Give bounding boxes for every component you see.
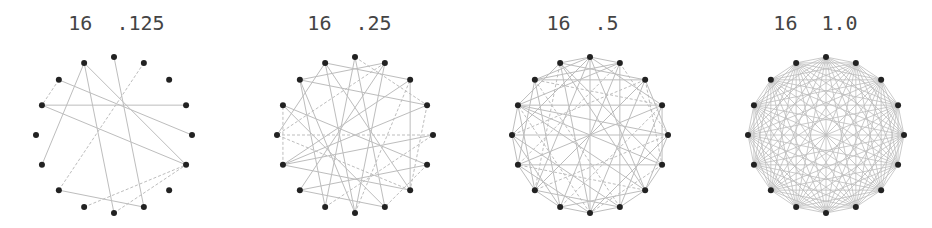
graph-edge [59,80,192,135]
graph-node [166,187,172,193]
graph-4 [745,54,907,216]
graph-node [352,210,358,216]
graph-node [751,102,757,108]
graph-edge [59,63,144,190]
graph-node [768,187,774,193]
graph-node [39,102,45,108]
graph-node [587,54,593,60]
graph-node [56,187,62,193]
graph-node [617,204,623,210]
graph-node [382,60,388,66]
graph-node [183,102,189,108]
circular-graph-drawings [0,0,932,228]
graph-node [280,162,286,168]
graph-node [745,132,751,138]
graph-node [141,204,147,210]
graph-node [189,132,195,138]
graph-node [823,210,829,216]
graph-node [642,187,648,193]
graph-node [895,102,901,108]
graph-node [878,77,884,83]
graph-node [823,54,829,60]
graph-node [532,77,538,83]
graph-node [424,162,430,168]
graph-node [81,60,87,66]
graph-node [183,162,189,168]
graph-edge [410,105,427,190]
graph-edge [590,165,662,213]
graph-node [111,210,117,216]
graph-node [141,60,147,66]
graph-node [793,60,799,66]
graph-node [557,204,563,210]
graph-edge [535,63,620,80]
graph-node [424,102,430,108]
graph-node [617,60,623,66]
graph-edge [114,57,144,207]
graph-edge [84,165,186,207]
graph-node [280,102,286,108]
graph-3 [509,54,671,216]
graph-node [322,204,328,210]
graph-1 [33,54,195,216]
graph-node [407,187,413,193]
graph-node [39,162,45,168]
graph-edge [300,190,385,207]
graph-edge [512,57,590,135]
graph-node [56,77,62,83]
graph-node [895,162,901,168]
graph-node [509,132,515,138]
graph-node [111,54,117,60]
graph-node [430,132,436,138]
graph-edge [114,165,186,213]
graph-node [659,102,665,108]
graph-node [33,132,39,138]
graph-node [515,162,521,168]
graph-edge [59,190,144,207]
graph-node [659,162,665,168]
graph-edge [42,80,59,105]
graph-node [407,77,413,83]
graph-node [166,77,172,83]
graph-node [642,77,648,83]
graph-node [515,102,521,108]
graph-node [665,132,671,138]
graph-node [878,187,884,193]
graph-node [322,60,328,66]
graph-node [853,204,859,210]
graph-node [532,187,538,193]
graph-node [352,54,358,60]
graph-node [768,77,774,83]
graph-node [557,60,563,66]
graph-edge [518,80,535,165]
graph-node [793,204,799,210]
graph-node [853,60,859,66]
graph-edge [84,63,114,213]
graph-edge [325,57,355,207]
graph-node [587,210,593,216]
graph-node [81,204,87,210]
graph-node [297,187,303,193]
graph-node [274,132,280,138]
graph-node [382,204,388,210]
graph-node [297,77,303,83]
graph-node [751,162,757,168]
graph-node [901,132,907,138]
graph-2 [274,54,436,216]
graph-edge [42,105,186,165]
